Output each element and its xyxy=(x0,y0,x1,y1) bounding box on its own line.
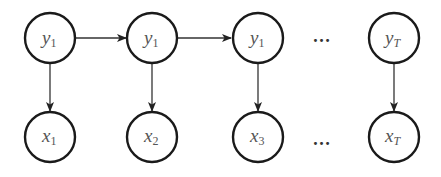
node-label-sub: 3 xyxy=(258,134,264,148)
node-label-sub: 1 xyxy=(50,134,56,148)
node-label-main: y xyxy=(40,27,51,48)
hidden-node-y1a: y1 xyxy=(25,13,75,63)
ellipsis-bottom: … xyxy=(313,129,332,149)
ellipsis-top: … xyxy=(313,26,332,46)
node-label-sub: 1 xyxy=(50,36,56,50)
node-label-sub: 2 xyxy=(152,134,158,148)
emission-edges xyxy=(50,63,394,111)
node-label-sub: 1 xyxy=(152,36,158,50)
node-label-main: y xyxy=(248,27,259,48)
observed-node-x1: x1 xyxy=(25,112,75,162)
node-label-sub: 1 xyxy=(258,36,264,50)
observed-node-xT: xT xyxy=(369,112,419,162)
hidden-node-yT: yT xyxy=(369,13,419,63)
observed-node-x2: x2 xyxy=(127,112,177,162)
hidden-node-y1b: y1 xyxy=(127,13,177,63)
hidden-node-y1c: y1 xyxy=(233,13,283,63)
node-label-main: y xyxy=(383,27,394,48)
observed-node-x3: x3 xyxy=(233,112,283,162)
hmm-diagram: y1 y1 y1 yT x1 x2 x3 xyxy=(0,0,441,177)
node-label-main: y xyxy=(142,27,153,48)
